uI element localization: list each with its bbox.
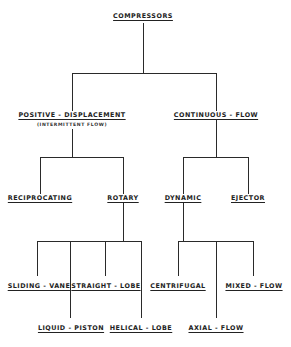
compressor-classification-tree: COMPRESSORS POSITIVE - DISPLACEMENT (INT… [0,0,291,347]
connector-pd-branch [40,157,124,158]
connector-to-axial-flow [216,241,217,318]
connector-to-dynamic [183,157,184,194]
connector-rotary-down [123,203,124,241]
node-mixed-flow: MIXED - FLOW [225,282,282,290]
connector-cf-branch [183,157,249,158]
connector-dynamic-down [183,203,184,241]
connector-to-mixed-flow [253,241,254,276]
connector-cf-down [216,120,217,157]
node-continuous-flow: CONTINUOUS - FLOW [174,111,258,119]
connector-to-ejector [248,157,249,194]
node-straight-lobe: STRAIGHT - LOBE [71,282,140,290]
node-ejector: EJECTOR [231,194,265,202]
node-rotary: ROTARY [107,194,138,202]
node-helical-lobe: HELICAL - LOBE [110,324,173,332]
connector-to-centrifugal [178,241,179,276]
node-compressors: COMPRESSORS [113,12,173,20]
node-sliding-vane: SLIDING - VANE [8,282,71,290]
node-liquid-piston: LIQUID - PISTON [38,324,104,332]
connector-to-continuous-flow [216,73,217,111]
connector-root-branch [72,73,217,74]
node-axial-flow: AXIAL - FLOW [188,324,243,332]
connector-to-positive-displacement [72,73,73,111]
node-positive-displacement: POSITIVE - DISPLACEMENT [18,111,125,119]
connector-to-liquid-piston [70,241,71,318]
node-centrifugal: CENTRIFUGAL [150,282,205,290]
connector-rotary-branch [37,241,142,242]
connector-to-helical-lobe [141,241,142,318]
node-positive-displacement-sublabel: (INTERMITTENT FLOW) [37,122,107,128]
connector-to-reciprocating [40,157,41,194]
connector-to-rotary [123,157,124,194]
connector-to-straight-lobe [105,241,106,276]
connector-pd-down [72,129,73,157]
node-dynamic: DYNAMIC [165,194,202,202]
node-reciprocating: RECIPROCATING [8,194,72,202]
connector-to-sliding-vane [37,241,38,276]
connector-root-down [143,23,144,73]
